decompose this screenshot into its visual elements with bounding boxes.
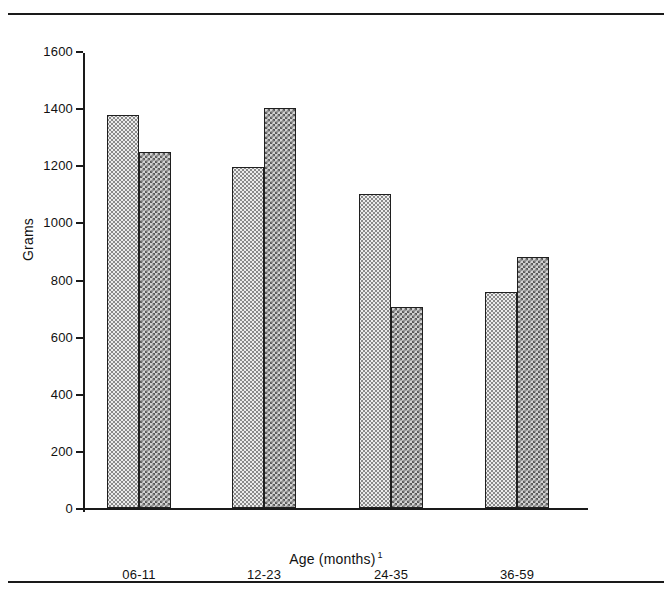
y-axis-line (83, 53, 85, 512)
y-tick-label: 800 (51, 273, 73, 286)
bar-12-23-series-1 (232, 167, 264, 508)
y-tick-mark (76, 508, 83, 510)
y-tick-mark (76, 394, 83, 396)
y-tick-mark (76, 165, 83, 167)
x-axis-title-text: Age (months) (289, 551, 375, 567)
x-axis-footnote-marker: 1 (378, 550, 383, 560)
bar-12-23-series-2 (264, 108, 296, 508)
bar-06-11-series-2 (139, 152, 171, 508)
y-tick-label: 1200 (43, 159, 73, 172)
y-tick-mark (76, 280, 83, 282)
y-tick-mark (76, 451, 83, 453)
y-tick-label: 200 (51, 444, 73, 457)
bar-24-35-series-2 (391, 307, 423, 508)
y-tick-label: 600 (51, 330, 73, 343)
bottom-divider-rule (8, 581, 664, 583)
y-tick-mark (76, 337, 83, 339)
y-tick-label: 1600 (43, 45, 73, 58)
x-axis-line (83, 508, 588, 510)
y-tick-mark (76, 108, 83, 110)
bar-06-11-series-1 (107, 115, 139, 508)
x-tick-label-12-23: 12-23 (247, 567, 281, 582)
top-divider-rule (8, 13, 664, 15)
x-tick-label-24-35: 24-35 (374, 567, 408, 582)
y-tick-mark (76, 222, 83, 224)
figure: Grams Age (months)1 02004006008001000120… (0, 0, 672, 596)
plot-area: 02004006008001000120014001600 06-1112-23… (83, 53, 588, 510)
x-axis-title: Age (months)1 (0, 550, 672, 567)
bar-36-59-series-2 (517, 257, 549, 508)
y-tick-label: 1400 (43, 102, 73, 115)
x-tick-label-06-11: 06-11 (122, 567, 155, 582)
y-tick-label: 400 (51, 387, 73, 400)
y-axis-title: Grams (20, 231, 36, 261)
bar-36-59-series-1 (485, 292, 517, 508)
y-tick-mark (76, 51, 83, 53)
x-tick-label-36-59: 36-59 (500, 567, 534, 582)
bar-24-35-series-1 (359, 194, 391, 508)
y-tick-label: 0 (66, 502, 73, 515)
y-tick-label: 1000 (43, 216, 73, 229)
